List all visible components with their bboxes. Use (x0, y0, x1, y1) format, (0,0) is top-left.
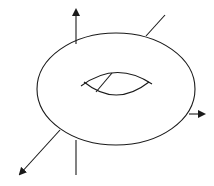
diagram-svg (0, 0, 214, 186)
torus-hole-upper-arc (81, 72, 152, 86)
y-axis-front-arrow-icon (20, 130, 60, 174)
diagonal-axis-back-line (146, 15, 165, 36)
torus-outer-edge (37, 33, 195, 145)
torus-hole-lower-arc (84, 82, 149, 95)
coordinate-axes (20, 10, 204, 175)
torus-diagram (0, 0, 214, 186)
